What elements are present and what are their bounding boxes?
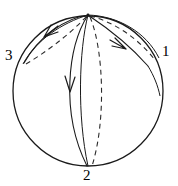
arc-pole-to-vertex2-back-dashed xyxy=(90,17,102,166)
arrow-head-toward-vertex1 xyxy=(110,38,126,49)
north-pole-node xyxy=(87,14,90,17)
arc-pole-to-vertex2-limb xyxy=(80,15,88,166)
sphere-diagram-canvas xyxy=(0,0,178,186)
vertex-label-1: 1 xyxy=(162,44,170,59)
arc-pole-to-vertex1-outer xyxy=(88,15,159,58)
arrow-head-toward-vertex3 xyxy=(44,25,58,37)
sphere-outline-circle xyxy=(13,16,163,166)
arc-vertex1-rim-tail xyxy=(148,66,160,96)
arc-pole-to-vertex2-front xyxy=(70,15,88,166)
vertex-label-2: 2 xyxy=(83,168,91,183)
vertex-label-3: 3 xyxy=(5,48,13,63)
sphere-figure: 3 1 2 xyxy=(0,0,178,186)
